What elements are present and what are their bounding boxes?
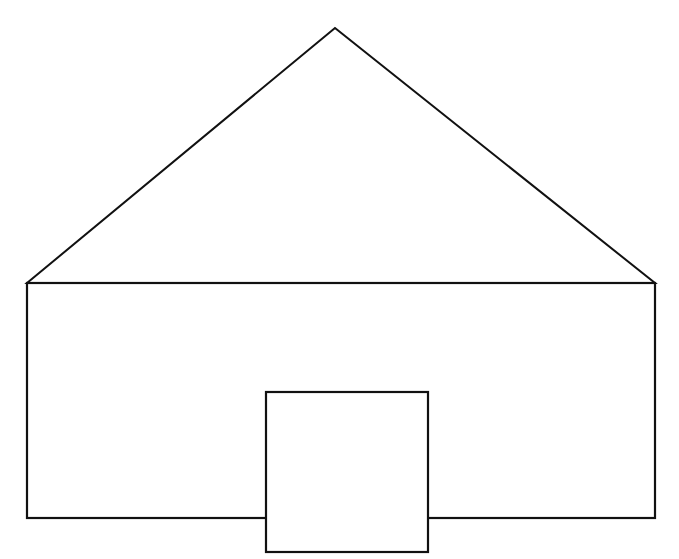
roof (27, 28, 655, 283)
house-drawing (0, 0, 679, 559)
door (266, 392, 428, 552)
